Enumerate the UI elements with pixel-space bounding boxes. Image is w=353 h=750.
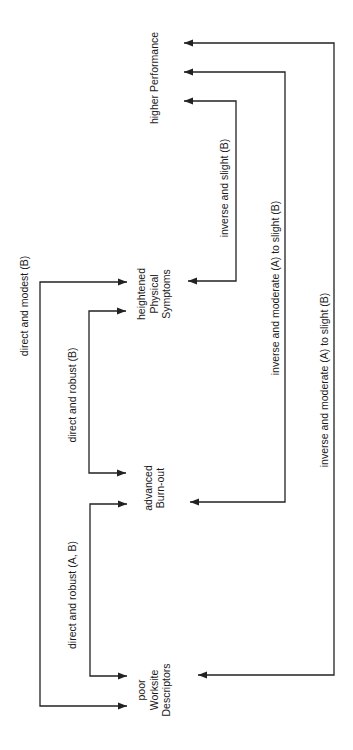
- arrowhead-icon: [117, 470, 126, 477]
- edge-burnout-symptoms: direct and robust (B): [66, 308, 126, 477]
- node-performance: higher Performance: [148, 32, 160, 124]
- edge-worksite-burnout: direct and robust (A, B): [66, 501, 127, 680]
- node-label: Descriptors: [160, 663, 172, 716]
- node-label: heightened: [135, 268, 147, 320]
- arrowhead-icon: [118, 673, 127, 680]
- node-label: higher Performance: [148, 32, 160, 124]
- edge-burnout-performance: inverse and moderate (A) to slight (B): [184, 69, 285, 506]
- edge-label: direct and robust (A, B): [66, 541, 78, 649]
- node-symptoms: heightenedPhysicalSymptoms: [135, 268, 172, 320]
- connector-line: [40, 282, 127, 706]
- arrowhead-icon: [188, 278, 197, 285]
- node-label: advanced: [142, 465, 154, 511]
- connector-line: [90, 504, 127, 676]
- node-label: Physical: [148, 274, 160, 313]
- node-label: Worksite: [148, 670, 160, 711]
- edge-worksite-performance: inverse and moderate (A) to slight (B): [184, 40, 334, 679]
- arrowhead-icon: [198, 672, 207, 679]
- arrowhead-icon: [118, 279, 127, 286]
- arrowhead-icon: [190, 499, 199, 506]
- node-label: poor: [135, 679, 147, 701]
- arrowhead-icon: [118, 703, 127, 710]
- edge-label: direct and modest (B): [18, 256, 30, 356]
- edges-layer: direct and modest (B)direct and robust (…: [18, 40, 334, 710]
- edge-label: inverse and moderate (A) to slight (B): [269, 201, 281, 376]
- node-label: Symptoms: [160, 269, 172, 319]
- arrowhead-icon: [184, 69, 193, 76]
- nodes-layer: higher PerformanceheightenedPhysicalSymp…: [135, 32, 172, 717]
- node-burnout: advancedBurn-out: [142, 465, 167, 511]
- arrowhead-icon: [118, 501, 127, 508]
- edge-label: direct and robust (B): [66, 347, 78, 442]
- edge-symptoms-performance: inverse and slight (B): [184, 98, 236, 285]
- arrowhead-icon: [184, 98, 193, 105]
- arrowhead-icon: [184, 40, 193, 47]
- relationship-diagram: direct and modest (B)direct and robust (…: [0, 0, 353, 750]
- arrowhead-icon: [117, 308, 126, 315]
- connector-line: [89, 311, 126, 473]
- connector-line: [184, 43, 334, 675]
- edge-label: inverse and moderate (A) to slight (B): [318, 293, 330, 468]
- diagram-canvas: direct and modest (B)direct and robust (…: [0, 0, 353, 750]
- node-label: Burn-out: [154, 468, 166, 508]
- edge-label: inverse and slight (B): [218, 139, 230, 238]
- node-worksite: poorWorksiteDescriptors: [135, 663, 172, 716]
